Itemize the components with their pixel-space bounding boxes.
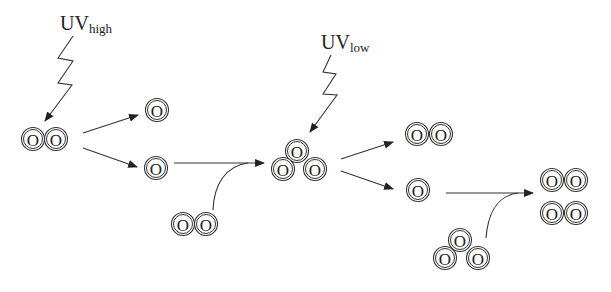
oxygen-atom: O (146, 99, 169, 122)
oxygen-atom: O (304, 158, 327, 181)
oxygen-atom: O (449, 229, 472, 252)
arrow-to-o-lower (83, 148, 137, 167)
molecule-o3-reactant: OOO (434, 229, 490, 270)
uv-low-label: UVlow (321, 31, 370, 55)
molecule-o2-final-2: OO (541, 202, 588, 225)
oxygen-atom: O (145, 157, 168, 180)
molecule-o-product-right: O (407, 179, 430, 202)
atom-label: O (27, 131, 39, 150)
molecule-o-product-lower: O (145, 157, 168, 180)
oxygen-atom: O (195, 213, 218, 236)
oxygen-atom: O (565, 202, 588, 225)
arrow-to-o-product (341, 171, 393, 189)
molecule-o2-reactant-2: OO (172, 213, 218, 236)
oxygen-atom: O (272, 158, 295, 181)
atom-label: O (50, 131, 62, 150)
molecule-o2-reactant-1: OO (22, 128, 68, 151)
atom-label: O (546, 172, 558, 191)
atom-label: O (570, 205, 582, 224)
merge-curve-o2 (213, 163, 248, 210)
atom-label: O (411, 126, 423, 145)
ozone-cycle-diagram: UVhigh UVlow OOOOOOOOOOOOOOOOOOO (0, 0, 611, 292)
oxygen-atom: O (407, 179, 430, 202)
oxygen-atom: O (434, 247, 457, 270)
oxygen-atom: O (406, 123, 429, 146)
atom-label: O (150, 160, 162, 179)
oxygen-atom: O (22, 128, 45, 151)
uv-low-zigzag-arrow (310, 55, 337, 132)
oxygen-atom: O (172, 213, 195, 236)
arrow-to-o-upper (83, 115, 138, 133)
atom-label: O (439, 250, 451, 269)
atom-label: O (472, 250, 484, 269)
oxygen-atom: O (45, 128, 68, 151)
oxygen-atom: O (541, 169, 564, 192)
atom-label: O (435, 126, 447, 145)
atom-label: O (277, 161, 289, 180)
oxygen-atom: O (541, 202, 564, 225)
atom-label: O (200, 216, 212, 235)
molecule-o-product-upper: O (146, 99, 169, 122)
oxygen-atom: O (565, 169, 588, 192)
atom-label: O (546, 205, 558, 224)
oxygen-atom: O (467, 247, 490, 270)
molecule-o2-final-1: OO (541, 169, 588, 192)
uv-high-zigzag-arrow (45, 36, 73, 121)
atom-label: O (291, 143, 303, 162)
arrow-to-o2-product (341, 142, 393, 159)
atom-label: O (412, 182, 424, 201)
molecule-o2-product-upper: OO (406, 123, 453, 146)
atom-label: O (454, 232, 466, 251)
merge-curve-o3 (486, 193, 518, 238)
oxygen-atom: O (430, 123, 453, 146)
atom-label: O (177, 216, 189, 235)
atom-label: O (151, 102, 163, 121)
atom-label: O (570, 172, 582, 191)
molecule-o3-center: OOO (272, 140, 327, 181)
uv-high-label: UVhigh (60, 12, 113, 36)
atom-label: O (309, 161, 321, 180)
